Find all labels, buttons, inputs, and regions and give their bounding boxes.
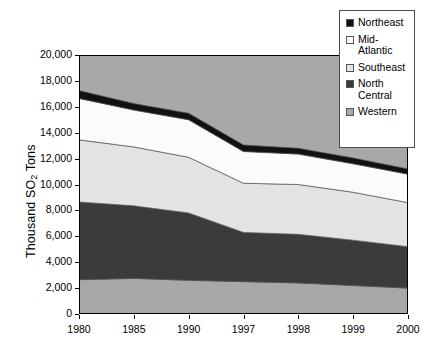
y-tick-label: 20,000 <box>20 49 72 60</box>
legend-swatch-icon <box>346 108 354 116</box>
x-tick-mark <box>244 315 245 319</box>
legend-item-label: Southeast <box>358 62 405 74</box>
y-tick-label: 16,000 <box>20 101 72 112</box>
legend-item-label: Western <box>358 106 397 118</box>
x-tick-label: 1990 <box>163 324 215 335</box>
x-tick-label: 1997 <box>218 324 270 335</box>
x-tick-mark <box>189 315 190 319</box>
legend-item-label: Northeast <box>358 17 404 29</box>
legend-item-label: Mid-Atlantic <box>358 34 409 57</box>
y-tick-label: 0 <box>20 308 72 319</box>
x-tick-label: 1999 <box>327 324 379 335</box>
legend-item[interactable]: North Central <box>346 78 409 101</box>
legend-item-label: North Central <box>358 78 409 101</box>
y-tick-label: 10,000 <box>20 179 72 190</box>
legend-swatch-icon <box>346 19 354 27</box>
y-tick-label: 14,000 <box>20 127 72 138</box>
legend-item[interactable]: Western <box>346 106 409 118</box>
y-tick-label: 18,000 <box>20 75 72 86</box>
x-tick-mark <box>134 315 135 319</box>
x-tick-label: 2000 <box>382 324 434 335</box>
y-tick-label: 12,000 <box>20 153 72 164</box>
x-tick-mark <box>79 315 80 319</box>
y-tick-label: 2,000 <box>20 282 72 293</box>
y-tick-label: 4,000 <box>20 256 72 267</box>
legend-item[interactable]: Southeast <box>346 62 409 74</box>
legend-item-list: NortheastMid-AtlanticSoutheastNorth Cent… <box>346 17 409 118</box>
y-tick-label: 6,000 <box>20 230 72 241</box>
legend-item[interactable]: Mid-Atlantic <box>346 34 409 57</box>
legend-swatch-icon <box>346 64 354 72</box>
legend-item[interactable]: Northeast <box>346 17 409 29</box>
chart-container: Thousand SO2 Tons 20,00018,00016,00014,0… <box>0 0 440 352</box>
x-tick-mark <box>408 315 409 319</box>
x-tick-mark <box>353 315 354 319</box>
legend: NortheastMid-AtlanticSoutheastNorth Cent… <box>339 10 415 148</box>
y-tick-label: 8,000 <box>20 204 72 215</box>
legend-swatch-icon <box>346 80 354 88</box>
x-tick-label: 1998 <box>272 324 324 335</box>
x-tick-label: 1980 <box>53 324 105 335</box>
x-tick-label: 1985 <box>108 324 160 335</box>
x-tick-mark <box>298 315 299 319</box>
y-axis-title-prefix: Thousand SO <box>24 180 38 258</box>
legend-swatch-icon <box>346 36 354 44</box>
